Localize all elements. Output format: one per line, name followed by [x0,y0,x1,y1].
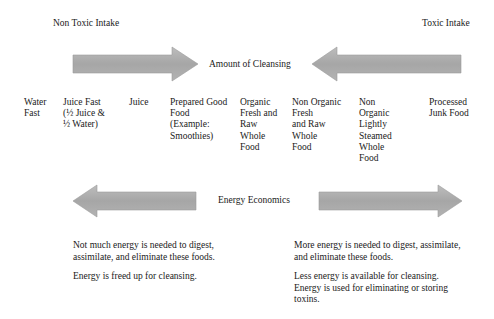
spectrum-item-juice-fast: Juice Fast (½ Juice & ½ Water) [63,97,105,131]
spectrum-item-organic-fresh-raw: Organic Fresh and Raw Whole Food [240,97,277,153]
spectrum-item-non-organic-fresh-raw: Non Organic Fresh and Raw Whole Food [292,97,341,153]
left-arrow-icon [311,46,463,82]
left-arrow-icon [72,184,198,218]
right-note-energy-needed: More energy is needed to digest, assimil… [294,240,464,263]
toxic-intake-label: Toxic Intake [422,18,470,29]
energy-economics-label: Energy Economics [218,195,290,206]
right-arrow-icon [318,184,464,218]
left-notes: Not much energy is needed to digest, ass… [73,240,243,291]
right-notes: More energy is needed to digest, assimil… [294,240,464,314]
right-note-energy-used: Less energy is available for cleansing. … [294,271,464,306]
right-arrow-icon [72,46,200,82]
left-note-energy-freed: Energy is freed up for cleansing. [73,271,243,283]
spectrum-item-juice: Juice [129,97,149,108]
left-note-energy-needed: Not much energy is needed to digest, ass… [73,240,243,263]
spectrum-item-water-fast: Water Fast [24,97,46,119]
spectrum-item-non-organic-steamed: Non Organic Lightly Steamed Whole Food [359,97,392,164]
spectrum-item-prepared-good-food: Prepared Good Food (Example: Smoothies) [170,97,227,142]
amount-of-cleansing-label: Amount of Cleansing [209,59,291,70]
spectrum-item-processed-junk-food: Processed Junk Food [429,97,469,119]
non-toxic-intake-label: Non Toxic Intake [53,18,119,29]
